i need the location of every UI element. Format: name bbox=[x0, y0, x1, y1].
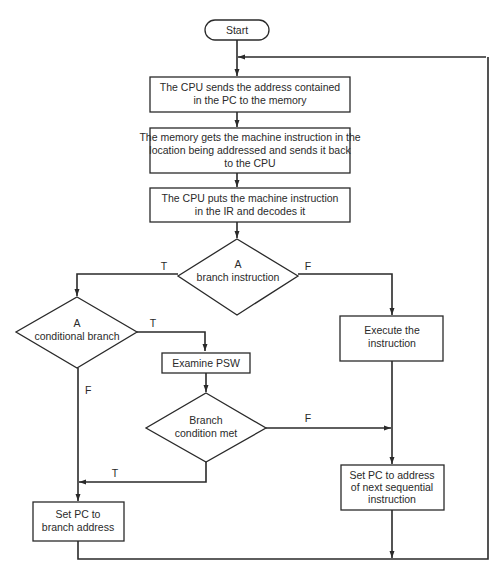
decision-condition-met: Branch condition met bbox=[146, 393, 266, 462]
label-branch-false: F bbox=[305, 260, 311, 272]
memory-fetch-line-3: to the CPU bbox=[224, 157, 275, 169]
label-condition-false: F bbox=[305, 412, 311, 424]
label-conditional-false: F bbox=[85, 384, 91, 396]
connector-conditional-true bbox=[137, 332, 205, 351]
start-label: Start bbox=[226, 24, 248, 36]
connector-branch-true bbox=[77, 274, 178, 296]
decision-is-conditional: A conditional branch bbox=[16, 297, 137, 368]
examine-psw-label: Examine PSW bbox=[172, 357, 240, 369]
execute-line-2: instruction bbox=[368, 337, 416, 349]
label-conditional-true: T bbox=[150, 317, 157, 329]
is-branch-line-2: branch instruction bbox=[197, 271, 280, 283]
decision-is-branch: A branch instruction bbox=[178, 239, 298, 315]
send-address-line-1: The CPU sends the address contained bbox=[160, 81, 341, 93]
process-execute: Execute the instruction bbox=[340, 316, 443, 361]
set-pc-next-line-3: instruction bbox=[368, 493, 416, 505]
connector-branch-false bbox=[298, 274, 392, 315]
is-branch-line-1: A bbox=[234, 258, 241, 270]
set-pc-branch-line-2: branch address bbox=[42, 521, 114, 533]
memory-fetch-line-1: The memory gets the machine instruction … bbox=[139, 131, 360, 143]
execute-line-1: Execute the bbox=[364, 324, 420, 336]
process-examine-psw: Examine PSW bbox=[162, 353, 250, 373]
condition-met-line-2: condition met bbox=[175, 427, 238, 439]
label-branch-true: T bbox=[161, 260, 168, 272]
decode-line-1: The CPU puts the machine instruction bbox=[162, 192, 339, 204]
set-pc-next-line-1: Set PC to address bbox=[349, 469, 434, 481]
process-set-pc-next: Set PC to address of next sequential ins… bbox=[341, 465, 444, 510]
label-condition-true: T bbox=[112, 467, 119, 479]
set-pc-branch-line-1: Set PC to bbox=[56, 508, 101, 520]
process-memory-fetch: The memory gets the machine instruction … bbox=[139, 128, 360, 173]
memory-fetch-line-2: location being addressed and sends it ba… bbox=[149, 144, 351, 156]
set-pc-next-line-2: of next sequential bbox=[351, 481, 433, 493]
process-decode: The CPU puts the machine instruction in … bbox=[150, 188, 350, 222]
is-conditional-line-2: conditional branch bbox=[34, 330, 119, 342]
start-terminal: Start bbox=[205, 20, 269, 40]
send-address-line-2: in the PC to the memory bbox=[193, 94, 307, 106]
connector-condition-true bbox=[79, 462, 206, 482]
process-set-pc-branch: Set PC to branch address bbox=[33, 502, 124, 541]
process-send-address: The CPU sends the address contained in t… bbox=[150, 77, 350, 112]
cpu-instruction-cycle-flowchart: Start The CPU sends the address containe… bbox=[0, 0, 503, 573]
is-conditional-line-1: A bbox=[73, 317, 80, 329]
decode-line-2: in the IR and decodes it bbox=[195, 205, 305, 217]
condition-met-line-1: Branch bbox=[189, 414, 222, 426]
